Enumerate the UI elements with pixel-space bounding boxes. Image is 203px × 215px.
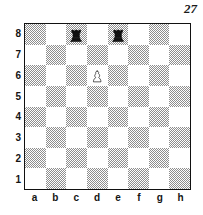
square-a7[interactable] xyxy=(25,45,46,66)
square-g7[interactable] xyxy=(149,45,170,66)
square-c5[interactable] xyxy=(66,86,87,107)
square-a5[interactable] xyxy=(25,86,46,107)
square-d1[interactable] xyxy=(87,168,108,189)
file-label-f: f xyxy=(128,192,149,210)
square-f7[interactable] xyxy=(128,45,149,66)
square-b1[interactable] xyxy=(46,168,67,189)
square-f8[interactable] xyxy=(128,24,149,45)
square-e3[interactable] xyxy=(108,127,129,148)
square-h8[interactable] xyxy=(169,24,190,45)
square-b2[interactable] xyxy=(46,148,67,169)
square-e4[interactable] xyxy=(108,107,129,128)
square-d6[interactable] xyxy=(87,65,108,86)
board-border xyxy=(24,23,191,190)
black-rook-icon xyxy=(108,24,129,45)
square-c6[interactable] xyxy=(66,65,87,86)
square-f4[interactable] xyxy=(128,107,149,128)
chessboard xyxy=(24,23,191,190)
square-a3[interactable] xyxy=(25,127,46,148)
square-c8[interactable] xyxy=(66,24,87,45)
square-a1[interactable] xyxy=(25,168,46,189)
rank-label-1: 1 xyxy=(8,169,22,190)
square-b6[interactable] xyxy=(46,65,67,86)
square-g6[interactable] xyxy=(149,65,170,86)
square-h4[interactable] xyxy=(169,107,190,128)
file-label-e: e xyxy=(108,192,129,210)
square-h6[interactable] xyxy=(169,65,190,86)
square-g2[interactable] xyxy=(149,148,170,169)
board-grid xyxy=(25,24,190,189)
square-f1[interactable] xyxy=(128,168,149,189)
square-a4[interactable] xyxy=(25,107,46,128)
square-g8[interactable] xyxy=(149,24,170,45)
square-e1[interactable] xyxy=(108,168,129,189)
square-g4[interactable] xyxy=(149,107,170,128)
square-e5[interactable] xyxy=(108,86,129,107)
square-e7[interactable] xyxy=(108,45,129,66)
square-c7[interactable] xyxy=(66,45,87,66)
square-g3[interactable] xyxy=(149,127,170,148)
square-e6[interactable] xyxy=(108,65,129,86)
rank-label-8: 8 xyxy=(8,23,22,44)
square-e8[interactable] xyxy=(108,24,129,45)
square-h5[interactable] xyxy=(169,86,190,107)
square-h3[interactable] xyxy=(169,127,190,148)
square-c4[interactable] xyxy=(66,107,87,128)
square-c2[interactable] xyxy=(66,148,87,169)
rank-label-6: 6 xyxy=(8,65,22,86)
black-rook-icon xyxy=(66,24,87,45)
square-h2[interactable] xyxy=(169,148,190,169)
square-g1[interactable] xyxy=(149,168,170,189)
square-b4[interactable] xyxy=(46,107,67,128)
file-label-d: d xyxy=(87,192,108,210)
square-a8[interactable] xyxy=(25,24,46,45)
square-f3[interactable] xyxy=(128,127,149,148)
rank-label-2: 2 xyxy=(8,148,22,169)
file-label-b: b xyxy=(45,192,66,210)
diagram-number: 27 xyxy=(184,1,197,17)
square-f6[interactable] xyxy=(128,65,149,86)
square-b3[interactable] xyxy=(46,127,67,148)
square-e2[interactable] xyxy=(108,148,129,169)
rank-label-5: 5 xyxy=(8,86,22,107)
chess-diagram-page: 27 8 7 6 5 4 3 2 1 a b c d e f g h xyxy=(0,0,203,215)
square-d8[interactable] xyxy=(87,24,108,45)
rank-label-3: 3 xyxy=(8,127,22,148)
square-d7[interactable] xyxy=(87,45,108,66)
square-b7[interactable] xyxy=(46,45,67,66)
rank-label-7: 7 xyxy=(8,44,22,65)
square-c1[interactable] xyxy=(66,168,87,189)
square-d4[interactable] xyxy=(87,107,108,128)
square-c3[interactable] xyxy=(66,127,87,148)
file-label-a: a xyxy=(24,192,45,210)
rank-label-4: 4 xyxy=(8,107,22,128)
rank-labels: 8 7 6 5 4 3 2 1 xyxy=(8,23,22,190)
square-d5[interactable] xyxy=(87,86,108,107)
square-g5[interactable] xyxy=(149,86,170,107)
file-labels: a b c d e f g h xyxy=(24,192,191,210)
square-b5[interactable] xyxy=(46,86,67,107)
file-label-g: g xyxy=(149,192,170,210)
square-f5[interactable] xyxy=(128,86,149,107)
square-a6[interactable] xyxy=(25,65,46,86)
square-b8[interactable] xyxy=(46,24,67,45)
square-f2[interactable] xyxy=(128,148,149,169)
square-d3[interactable] xyxy=(87,127,108,148)
file-label-h: h xyxy=(170,192,191,210)
white-pawn-icon xyxy=(87,66,108,87)
square-h7[interactable] xyxy=(169,45,190,66)
square-d2[interactable] xyxy=(87,148,108,169)
file-label-c: c xyxy=(66,192,87,210)
square-h1[interactable] xyxy=(169,168,190,189)
square-a2[interactable] xyxy=(25,148,46,169)
